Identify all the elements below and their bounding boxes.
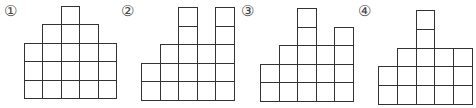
square-cell bbox=[279, 64, 299, 84]
square-cell bbox=[61, 80, 80, 99]
square-cell bbox=[260, 82, 280, 102]
square-cell bbox=[98, 43, 117, 62]
square-cell bbox=[215, 44, 235, 64]
square-cell bbox=[61, 61, 80, 80]
square-cell bbox=[297, 64, 317, 84]
square-cell bbox=[334, 82, 354, 102]
square-cell bbox=[98, 61, 117, 80]
square-cell bbox=[178, 63, 198, 83]
square-cell bbox=[397, 85, 417, 105]
square-cell bbox=[334, 45, 354, 65]
square-cell bbox=[434, 48, 454, 68]
square-cell bbox=[416, 48, 436, 68]
square-cell bbox=[453, 66, 473, 86]
figure-3-label: ③ bbox=[241, 4, 254, 19]
square-cell bbox=[215, 7, 235, 27]
square-cell bbox=[24, 61, 43, 80]
square-cell bbox=[42, 80, 61, 99]
square-cell bbox=[378, 66, 398, 86]
square-cell bbox=[297, 82, 317, 102]
square-cell bbox=[297, 8, 317, 28]
square-cell bbox=[334, 64, 354, 84]
square-cell bbox=[316, 82, 336, 102]
square-cell bbox=[42, 43, 61, 62]
square-cell bbox=[334, 27, 354, 47]
square-cell bbox=[79, 61, 98, 80]
square-cell bbox=[215, 63, 235, 83]
square-cell bbox=[42, 24, 61, 43]
square-cell bbox=[61, 24, 80, 43]
square-cell bbox=[316, 45, 336, 65]
square-cell bbox=[98, 80, 117, 99]
square-cell bbox=[215, 81, 235, 101]
figure-1-label: ① bbox=[4, 4, 17, 19]
square-cell bbox=[397, 66, 417, 86]
figure-4-label: ④ bbox=[358, 4, 371, 19]
square-cell bbox=[416, 29, 436, 49]
square-cell bbox=[453, 48, 473, 68]
square-cell bbox=[197, 81, 217, 101]
square-cell bbox=[24, 43, 43, 62]
square-cell bbox=[197, 63, 217, 83]
square-cell bbox=[434, 66, 454, 86]
square-cell bbox=[297, 45, 317, 65]
square-cell bbox=[416, 85, 436, 105]
square-cell bbox=[434, 85, 454, 105]
square-cell bbox=[279, 82, 299, 102]
square-cell bbox=[178, 81, 198, 101]
square-cell bbox=[24, 80, 43, 99]
square-cell bbox=[61, 6, 80, 25]
square-cell bbox=[416, 10, 436, 30]
square-cell bbox=[160, 44, 180, 64]
square-cell bbox=[141, 63, 161, 83]
square-cell bbox=[61, 43, 80, 62]
figure-2-label: ② bbox=[121, 4, 134, 19]
square-cell bbox=[141, 81, 161, 101]
square-cell bbox=[215, 26, 235, 46]
square-cell bbox=[260, 64, 280, 84]
square-cell bbox=[79, 80, 98, 99]
square-cell bbox=[42, 61, 61, 80]
square-cell bbox=[397, 48, 417, 68]
square-cell bbox=[178, 7, 198, 27]
square-cell bbox=[316, 64, 336, 84]
square-cell bbox=[79, 43, 98, 62]
square-cell bbox=[79, 24, 98, 43]
square-cell bbox=[279, 45, 299, 65]
square-cell bbox=[178, 26, 198, 46]
square-cell bbox=[160, 63, 180, 83]
square-cell bbox=[178, 44, 198, 64]
square-cell bbox=[160, 81, 180, 101]
square-cell bbox=[378, 85, 398, 105]
square-cell bbox=[453, 85, 473, 105]
square-cell bbox=[416, 66, 436, 86]
square-cell bbox=[197, 44, 217, 64]
square-cell bbox=[297, 27, 317, 47]
